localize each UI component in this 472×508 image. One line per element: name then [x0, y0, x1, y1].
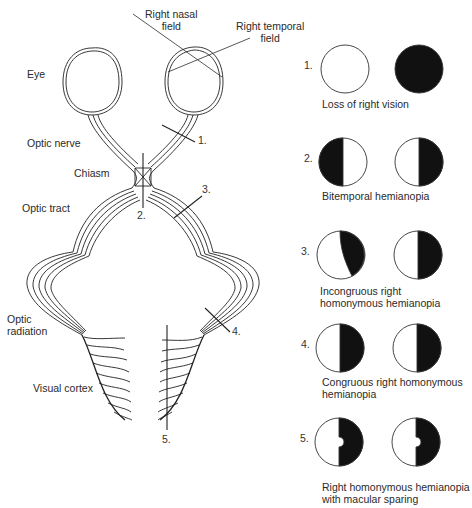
defect-1-number: 1.	[304, 59, 313, 71]
field-1-right	[395, 45, 443, 93]
defect-5-caption: Right homonymous hemianopia with macular…	[322, 481, 470, 505]
defect-5-number: 5.	[300, 432, 309, 444]
defect-3-caption: Incongruous right homonymous hemianopia	[320, 285, 440, 309]
field-5-left	[315, 418, 363, 466]
visual-field-panel	[0, 0, 472, 508]
field-2-left	[319, 138, 367, 186]
caption-line: hemianopia	[322, 388, 463, 400]
caption-line: with macular sparing	[322, 493, 470, 505]
caption-line: Congruous right homonymous	[322, 376, 463, 388]
caption-line: Loss of right vision	[322, 98, 409, 110]
defect-3-number: 3.	[301, 245, 310, 257]
field-3-right	[394, 231, 442, 279]
caption-line: Bitemporal hemianopia	[322, 190, 429, 202]
caption-line: Incongruous right	[320, 285, 440, 297]
defect-1-caption: Loss of right vision	[322, 98, 409, 110]
field-5-right	[392, 418, 440, 466]
field-4-right	[393, 324, 441, 372]
defect-2-caption: Bitemporal hemianopia	[322, 190, 429, 202]
defect-4-number: 4.	[301, 338, 310, 350]
defect-4-caption: Congruous right homonymous hemianopia	[322, 376, 463, 400]
caption-line: homonymous hemianopia	[320, 297, 440, 309]
field-4-left	[316, 324, 364, 372]
caption-line: Right homonymous hemianopia	[322, 481, 470, 493]
defect-2-number: 2.	[304, 152, 313, 164]
field-1-left	[321, 45, 369, 93]
field-2-right	[395, 138, 443, 186]
field-3-left	[317, 231, 365, 279]
